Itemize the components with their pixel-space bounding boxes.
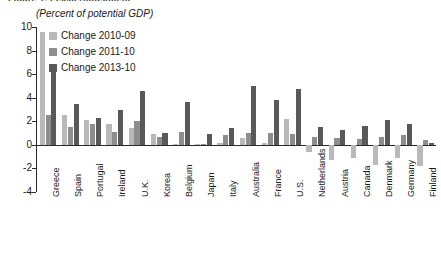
bar-group [329, 27, 346, 192]
y-tick-mark [32, 27, 36, 28]
y-tick-label: 8 [26, 46, 32, 56]
x-axis-category-label: Denmark [385, 160, 394, 197]
bar[interactable] [395, 145, 400, 158]
bar[interactable] [62, 115, 67, 144]
bar[interactable] [84, 120, 89, 145]
bar[interactable] [340, 130, 345, 145]
bar[interactable] [429, 143, 434, 145]
y-tick-mark [32, 74, 36, 75]
y-axis-line [36, 27, 37, 192]
bar[interactable] [51, 72, 56, 145]
bar[interactable] [134, 121, 139, 145]
bar[interactable] [223, 135, 228, 144]
bar[interactable] [46, 115, 51, 144]
bar[interactable] [296, 89, 301, 144]
y-tick-mark [32, 145, 36, 146]
bar-group [129, 27, 146, 192]
bar-group [62, 27, 79, 192]
bar[interactable] [290, 134, 295, 145]
bar[interactable] [179, 132, 184, 145]
bar[interactable] [129, 128, 134, 145]
bar[interactable] [373, 145, 378, 165]
bar[interactable] [40, 32, 45, 145]
x-axis-category-label: Portugal [96, 163, 105, 197]
bar[interactable] [312, 137, 317, 145]
bar-group [151, 27, 168, 192]
figure-header: Figure 1. Fiscal Adjustment [8, 0, 131, 1]
bar[interactable] [185, 102, 190, 144]
bar[interactable] [68, 127, 73, 145]
bar[interactable] [417, 145, 422, 166]
bar[interactable] [96, 118, 101, 145]
x-axis-category-label: Italy [229, 180, 238, 197]
figure-subtitle: (Percent of potential GDP) [36, 8, 153, 19]
bar[interactable] [251, 86, 256, 145]
bar[interactable] [207, 134, 212, 145]
y-tick-mark [32, 98, 36, 99]
x-axis-category-label: Austria [341, 169, 350, 197]
bar[interactable] [240, 138, 245, 145]
bar[interactable] [385, 120, 390, 145]
bar[interactable] [401, 135, 406, 144]
bar[interactable] [217, 143, 222, 145]
y-tick-label: -4 [23, 187, 32, 197]
bar[interactable] [268, 133, 273, 145]
bar[interactable] [74, 104, 79, 145]
bar[interactable] [334, 138, 339, 145]
figure-panel: Figure 1. Fiscal Adjustment (Percent of … [0, 0, 441, 259]
bar[interactable] [201, 144, 206, 145]
bar[interactable] [157, 137, 162, 145]
bar[interactable] [423, 140, 428, 145]
bar[interactable] [329, 145, 334, 160]
x-axis-category-label: Korea [163, 173, 172, 197]
y-tick-label: -2 [23, 163, 32, 173]
x-axis-category-label: Belgium [185, 164, 194, 197]
bar-group [106, 27, 123, 192]
bar[interactable] [151, 134, 156, 145]
bar[interactable] [229, 128, 234, 145]
y-tick-label: 4 [26, 93, 32, 103]
bar[interactable] [379, 137, 384, 145]
bar[interactable] [90, 124, 95, 145]
y-tick-label: 10 [21, 22, 32, 32]
bar[interactable] [195, 144, 200, 145]
bar[interactable] [173, 144, 178, 145]
bar-group [284, 27, 301, 192]
bar[interactable] [407, 124, 412, 145]
y-tick-mark [32, 51, 36, 52]
bar-group [262, 27, 279, 192]
bar[interactable] [106, 124, 111, 145]
bar[interactable] [112, 132, 117, 145]
bar[interactable] [162, 133, 167, 145]
bar[interactable] [274, 100, 279, 145]
x-axis-category-label: Greece [52, 167, 61, 197]
bar[interactable] [140, 91, 145, 145]
y-tick-mark [32, 168, 36, 169]
x-axis-category-label: Japan [207, 172, 216, 197]
bar[interactable] [246, 133, 251, 145]
x-axis-category-label: Australia [252, 162, 261, 197]
y-tick-label: 6 [26, 69, 32, 79]
x-axis-category-label: U.K. [141, 179, 150, 197]
x-axis-category-label: Ireland [118, 169, 127, 197]
x-axis-category-label: Netherlands [318, 148, 327, 197]
x-axis-category-label: Finland [429, 167, 438, 197]
bar[interactable] [306, 145, 311, 152]
bar-group [195, 27, 212, 192]
y-tick-mark [32, 192, 36, 193]
bar[interactable] [262, 143, 267, 145]
bar[interactable] [357, 139, 362, 145]
bar[interactable] [118, 110, 123, 145]
plot-area: 1086420-2-4GreeceSpainPortugalIrelandU.K… [36, 27, 436, 192]
bar[interactable] [284, 119, 289, 145]
x-axis-category-label: U.S. [296, 179, 305, 197]
x-axis-category-label: France [274, 169, 283, 197]
y-tick-mark [32, 121, 36, 122]
x-axis-category-label: Canada [363, 165, 372, 197]
y-tick-label: 2 [26, 116, 32, 126]
bar[interactable] [362, 126, 367, 145]
bar[interactable] [318, 127, 323, 145]
x-axis-category-label: Spain [74, 174, 83, 197]
bar[interactable] [351, 145, 356, 158]
x-axis-category-label: Germany [407, 160, 416, 197]
